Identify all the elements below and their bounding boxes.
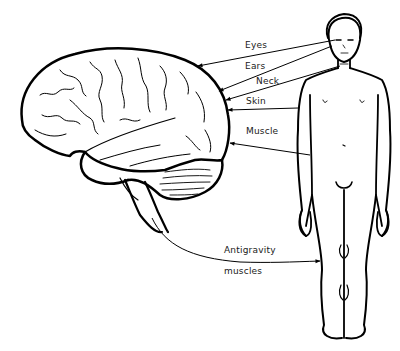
- arrow-antigravity: [152, 218, 320, 262]
- diagram-canvas: Eyes Ears Neck Skin Muscle Antigravity m…: [0, 0, 400, 351]
- label-muscle: Muscle: [246, 126, 278, 136]
- label-antigravity: Antigravity: [224, 245, 276, 255]
- label-ears: Ears: [245, 61, 265, 71]
- label-skin: Skin: [246, 96, 266, 106]
- arrow-neck: [226, 66, 340, 100]
- arrow-skin: [228, 108, 298, 110]
- label-muscles: muscles: [224, 266, 262, 276]
- label-neck: Neck: [256, 76, 279, 86]
- label-eyes: Eyes: [245, 40, 267, 50]
- body-figure: [297, 14, 390, 338]
- brain-figure: [22, 48, 230, 232]
